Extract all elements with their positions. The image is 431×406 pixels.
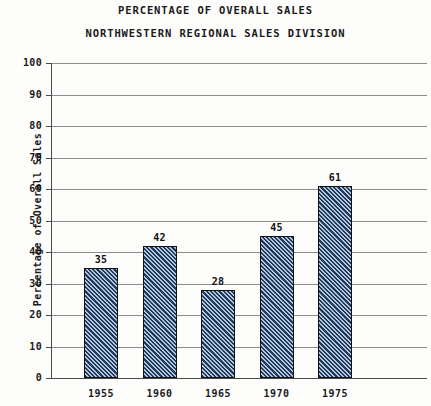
y-tick-label: 60 [0,183,42,194]
y-tick-label: 90 [0,89,42,100]
x-tick-label: 1965 [188,388,248,399]
x-tick-label: 1955 [71,388,131,399]
x-tick-label: 1960 [130,388,190,399]
bar[interactable] [201,290,235,378]
y-tick-label: 30 [0,278,42,289]
y-tick-label: 100 [0,57,42,68]
y-tick-label: 0 [0,372,42,383]
bar[interactable] [84,268,118,378]
bar[interactable] [260,236,294,378]
bar[interactable] [143,246,177,378]
chart-subtitle: NORTHWESTERN REGIONAL SALES DIVISION [0,27,431,39]
y-tick-label: 20 [0,309,42,320]
bar-chart: PERCENTAGE OF OVERALL SALES NORTHWESTERN… [0,0,431,406]
title-block: PERCENTAGE OF OVERALL SALES NORTHWESTERN… [0,0,431,39]
bar-group[interactable]: 28 [201,63,235,378]
x-tick-label: 1975 [305,388,365,399]
x-tick-label: 1970 [247,388,307,399]
x-axis-line [51,378,427,379]
bar-group[interactable]: 61 [318,63,352,378]
chart-title: PERCENTAGE OF OVERALL SALES [0,4,431,16]
bar-group[interactable]: 42 [143,63,177,378]
y-tick-label: 40 [0,246,42,257]
y-tick-label: 50 [0,215,42,226]
bar-value-label: 45 [252,222,302,233]
bar-value-label: 28 [193,276,243,287]
bar-group[interactable]: 35 [84,63,118,378]
bar-value-label: 35 [76,254,126,265]
bar-value-label: 42 [135,232,185,243]
plot-area: 3542284561 [51,63,381,378]
bar-group[interactable]: 45 [260,63,294,378]
y-tick-label: 10 [0,341,42,352]
bar[interactable] [318,186,352,378]
y-tick-label: 80 [0,120,42,131]
bar-value-label: 61 [310,172,360,183]
y-tick-label: 70 [0,152,42,163]
